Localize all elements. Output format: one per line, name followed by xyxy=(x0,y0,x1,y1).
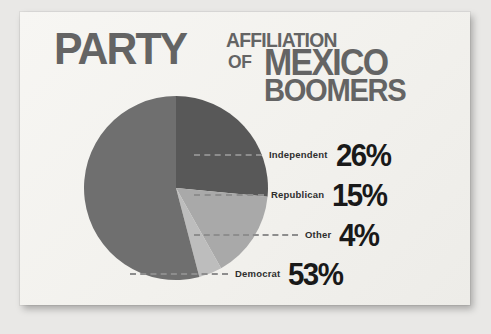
leader-line-democrat xyxy=(130,273,228,275)
leader-line-other xyxy=(194,234,298,236)
legend-value-other: 4% xyxy=(339,220,379,251)
legend-label-independent: Independent xyxy=(269,149,328,160)
legend-value-democrat: 53% xyxy=(288,259,342,290)
legend-value-independent: 26% xyxy=(336,140,390,171)
legend-label-republican: Republican xyxy=(271,189,324,200)
card-surface: PARTY AFFILIATION OF MEXICO BOOMERS Inde… xyxy=(20,12,470,305)
legend-value-republican: 15% xyxy=(332,180,386,211)
legend-label-democrat: Democrat xyxy=(235,268,280,279)
legend-row-other: Other 4% xyxy=(194,218,381,252)
leader-line-republican xyxy=(194,194,264,196)
legend-row-republican: Republican 15% xyxy=(194,178,389,212)
leader-line-independent xyxy=(194,154,262,156)
chart-legend: Independent 26% Republican 15% Other 4% … xyxy=(20,12,470,305)
legend-row-democrat: Democrat 53% xyxy=(130,257,346,291)
infographic-card: PARTY AFFILIATION OF MEXICO BOOMERS Inde… xyxy=(20,12,470,305)
legend-label-other: Other xyxy=(305,229,331,240)
legend-row-independent: Independent 26% xyxy=(194,138,393,172)
